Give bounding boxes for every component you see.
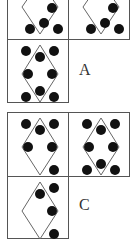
diamond-dots-figure xyxy=(69,0,131,41)
dot xyxy=(100,18,110,28)
dot xyxy=(47,3,57,13)
option-label-c: C xyxy=(79,197,90,213)
dot xyxy=(39,18,49,28)
dot xyxy=(35,125,45,135)
figure-cell-c3 xyxy=(7,176,69,239)
dot xyxy=(49,229,59,239)
diamond-dots-figure xyxy=(8,40,70,104)
dot xyxy=(21,46,31,56)
dot xyxy=(35,86,45,96)
dot xyxy=(21,119,31,129)
dot xyxy=(53,24,63,34)
figure-cell-a1 xyxy=(7,0,69,40)
dot xyxy=(86,24,96,34)
dot xyxy=(23,69,33,79)
dot xyxy=(110,165,120,175)
dot xyxy=(47,142,57,152)
diamond-dots-figure xyxy=(8,113,70,178)
diamond-dots-figure xyxy=(69,113,131,178)
dot xyxy=(108,142,118,152)
figure-cell-c2 xyxy=(68,112,130,177)
diamond-dots-figure xyxy=(8,177,70,240)
dot xyxy=(49,183,59,193)
dot xyxy=(82,119,92,129)
dot xyxy=(25,24,35,34)
dot xyxy=(35,52,45,62)
dot xyxy=(49,165,59,175)
figure-cell-c1 xyxy=(7,112,69,177)
dot xyxy=(108,3,118,13)
figure-cell-a2 xyxy=(68,0,130,40)
dot xyxy=(49,119,59,129)
dot xyxy=(21,92,31,102)
dot xyxy=(23,142,33,152)
dot xyxy=(47,206,57,216)
dot xyxy=(35,189,45,199)
dot xyxy=(49,92,59,102)
option-label-a: A xyxy=(79,62,91,78)
dot xyxy=(49,46,59,56)
dot xyxy=(96,125,106,135)
dot xyxy=(110,119,120,129)
dot xyxy=(114,24,124,34)
dot xyxy=(96,159,106,169)
diamond-dots-figure xyxy=(8,0,70,41)
dot xyxy=(82,165,92,175)
dot xyxy=(84,142,94,152)
dot xyxy=(47,69,57,79)
figure-cell-a3 xyxy=(7,39,69,103)
